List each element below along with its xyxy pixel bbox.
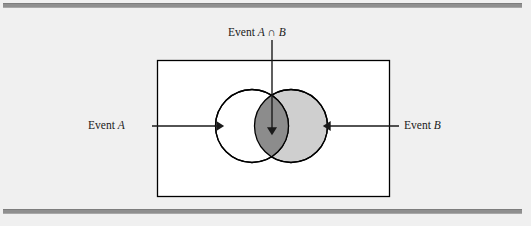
label-intersection-prefix: Event (228, 26, 258, 38)
label-event-b-set: B (434, 119, 441, 131)
figure-root: Event A ∩ B Event A Event B (0, 0, 531, 226)
label-event-a-prefix: Event (88, 119, 118, 131)
label-event-a: Event A (88, 120, 125, 132)
label-event-b: Event B (404, 120, 441, 132)
label-event-a-intersect-b: Event A ∩ B (228, 27, 286, 39)
label-event-b-prefix: Event (404, 119, 434, 131)
label-event-a-set: A (118, 119, 125, 131)
label-intersection-set-b: B (279, 26, 286, 38)
label-intersection-operator: ∩ (265, 26, 279, 38)
label-intersection-set-a: A (258, 26, 265, 38)
